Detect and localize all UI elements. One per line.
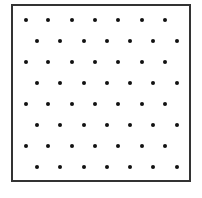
grid-dot: [140, 102, 144, 106]
grid-dot: [93, 144, 97, 148]
grid-dot: [46, 60, 50, 64]
grid-dot: [116, 60, 120, 64]
grid-dot: [175, 123, 179, 127]
grid-dot: [93, 18, 97, 22]
grid-dot: [105, 165, 109, 169]
grid-dot: [58, 81, 62, 85]
grid-dot: [35, 165, 39, 169]
grid-dot: [128, 81, 132, 85]
grid-dot: [163, 144, 167, 148]
grid-dot: [175, 81, 179, 85]
grid-dot: [35, 39, 39, 43]
grid-dot: [128, 165, 132, 169]
grid-dot: [24, 18, 28, 22]
grid-dot: [82, 39, 86, 43]
grid-dot: [116, 144, 120, 148]
grid-dot: [35, 123, 39, 127]
grid-dot: [93, 102, 97, 106]
grid-dot: [151, 81, 155, 85]
grid-dot: [140, 18, 144, 22]
grid-dot: [151, 39, 155, 43]
grid-dot: [24, 60, 28, 64]
square-frame: [11, 4, 191, 182]
grid-dot: [70, 144, 74, 148]
grid-dot: [24, 144, 28, 148]
grid-dot: [140, 144, 144, 148]
grid-dot: [70, 18, 74, 22]
grid-dot: [82, 123, 86, 127]
grid-dot: [128, 123, 132, 127]
grid-dot: [93, 60, 97, 64]
grid-dot: [58, 165, 62, 169]
grid-dot: [105, 81, 109, 85]
grid-dot: [175, 165, 179, 169]
grid-dot: [116, 102, 120, 106]
grid-dot: [58, 39, 62, 43]
grid-dot: [35, 81, 39, 85]
grid-dot: [163, 60, 167, 64]
grid-dot: [24, 102, 28, 106]
grid-dot: [105, 39, 109, 43]
grid-dot: [151, 165, 155, 169]
grid-dot: [82, 165, 86, 169]
grid-dot: [151, 123, 155, 127]
grid-dot: [46, 102, 50, 106]
grid-dot: [70, 102, 74, 106]
grid-dot: [46, 144, 50, 148]
grid-dot: [163, 102, 167, 106]
grid-dot: [58, 123, 62, 127]
dot-grid-diagram: [0, 0, 202, 198]
grid-dot: [46, 18, 50, 22]
grid-dot: [128, 39, 132, 43]
grid-dot: [70, 60, 74, 64]
grid-dot: [82, 81, 86, 85]
grid-dot: [116, 18, 120, 22]
grid-dot: [105, 123, 109, 127]
grid-dot: [175, 39, 179, 43]
grid-dot: [140, 60, 144, 64]
grid-dot: [163, 18, 167, 22]
